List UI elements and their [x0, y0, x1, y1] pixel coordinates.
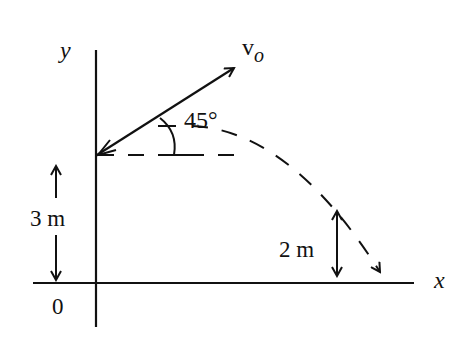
projectile-diagram: y x 0 vo 45° 3 m 2 m [0, 0, 466, 346]
origin-label: 0 [52, 294, 64, 319]
landing-height-label: 2 m [279, 237, 314, 262]
angle-label: 45° [184, 107, 218, 133]
angle-arc [160, 118, 175, 155]
velocity-label: vo [242, 34, 264, 66]
launch-height-label: 3 m [30, 206, 65, 231]
x-axis-label: x [433, 267, 445, 293]
y-axis-label: y [58, 37, 71, 63]
velocity-label-main: v [242, 34, 254, 60]
velocity-label-subscript: o [254, 44, 264, 66]
